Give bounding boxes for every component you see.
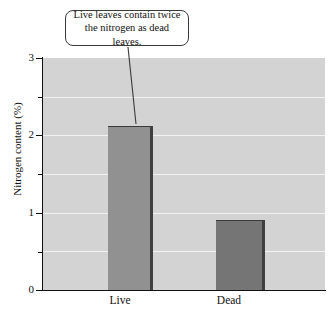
- y-tick-0-5: [38, 252, 43, 253]
- y-tick-2: [36, 135, 43, 136]
- annotation-callout: Live leaves contain twice the nitrogen a…: [65, 10, 189, 46]
- gridline-2-5: [43, 97, 325, 98]
- y-tick-1-5: [38, 174, 43, 175]
- y-tick-3: [36, 58, 43, 59]
- y-axis-title: Nitrogen content (%): [11, 69, 23, 229]
- x-tick-label-dead: Dead: [194, 294, 264, 306]
- gridline-0-5: [43, 251, 325, 252]
- plot-area: [43, 58, 325, 290]
- x-tick-label-live: Live: [85, 294, 155, 306]
- x-axis-line: [42, 290, 326, 291]
- annotation-line-1: Live leaves contain twice: [74, 9, 181, 20]
- annotation-callout-text: Live leaves contain twice the nitrogen a…: [66, 8, 188, 47]
- bar-live-face: [108, 126, 150, 290]
- y-tick-1: [36, 213, 43, 214]
- gridline-1-0: [43, 213, 325, 214]
- y-tick-label-3: 3: [14, 52, 34, 63]
- bar-dead-face: [216, 220, 262, 290]
- gridline-2-0: [43, 135, 325, 136]
- bar-dead: [216, 220, 265, 290]
- y-tick-label-0: 0: [14, 284, 34, 295]
- y-tick-0: [36, 290, 43, 291]
- bar-live: [108, 126, 153, 290]
- bar-live-shadow: [150, 126, 153, 290]
- bar-dead-shadow: [262, 220, 265, 290]
- annotation-line-2: the nitrogen as dead leaves.: [85, 22, 169, 46]
- y-tick-2-5: [38, 97, 43, 98]
- gridline-1-5: [43, 174, 325, 175]
- bar-chart-figure: 3 2 1 0 Nitrogen content (%) Live Dead L…: [0, 0, 336, 311]
